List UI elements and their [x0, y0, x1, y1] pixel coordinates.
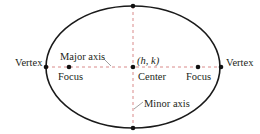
center-point	[131, 65, 136, 70]
vertex-right-point	[219, 65, 224, 70]
minor-axis-leader	[134, 102, 143, 109]
co-vertex-top-point	[131, 4, 136, 9]
ellipse-diagram: Vertex Vertex Focus Focus Center (h, k) …	[0, 0, 260, 134]
co-vertex-bottom-point	[131, 126, 136, 131]
focus-left-point	[67, 65, 72, 70]
vertex-left-point	[44, 65, 49, 70]
minor-axis-label: Minor axis	[144, 98, 190, 109]
focus-left-label: Focus	[58, 71, 83, 82]
vertex-left-label: Vertex	[15, 57, 43, 68]
center-label: Center	[138, 71, 166, 82]
major-axis-label: Major axis	[60, 51, 105, 62]
center-coords-label: (h, k)	[137, 55, 160, 67]
focus-right-point	[196, 65, 201, 70]
vertex-right-label: Vertex	[226, 57, 254, 68]
focus-right-label: Focus	[186, 71, 211, 82]
ellipse-figure: Vertex Vertex Focus Focus Center (h, k) …	[0, 0, 260, 134]
